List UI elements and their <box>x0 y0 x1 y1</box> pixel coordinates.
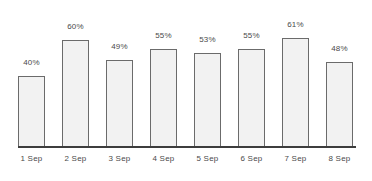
bar-rect[interactable] <box>326 62 353 147</box>
bar-chart: 40% 60% 49% 55% 53% 55% 61% 48% <box>0 0 372 181</box>
bar-group: 53% <box>194 0 221 148</box>
bar-value-label: 48% <box>317 44 362 54</box>
x-axis-tick-label: 2 Sep <box>53 153 98 165</box>
bar-group: 55% <box>150 0 177 148</box>
plot-area: 40% 60% 49% 55% 53% 55% 61% 48% <box>18 0 356 148</box>
bar-rect[interactable] <box>150 49 177 147</box>
bar-value-label: 55% <box>141 31 186 41</box>
bar-group: 60% <box>62 0 89 148</box>
bar-rect[interactable] <box>238 49 265 147</box>
bar-value-label: 49% <box>97 42 142 52</box>
x-axis-line <box>18 146 356 148</box>
bar-group: 48% <box>326 0 353 148</box>
bar-value-label: 55% <box>229 31 274 41</box>
bar-rect[interactable] <box>62 40 89 147</box>
x-axis-tick-label: 8 Sep <box>317 153 362 165</box>
bar-value-label: 61% <box>273 20 318 30</box>
bar-group: 40% <box>18 0 45 148</box>
x-axis-tick-label: 1 Sep <box>9 153 54 165</box>
bar-group: 49% <box>106 0 133 148</box>
bar-group: 61% <box>282 0 309 148</box>
bar-rect[interactable] <box>282 38 309 147</box>
bar-rect[interactable] <box>18 76 45 147</box>
bar-value-label: 40% <box>9 58 54 68</box>
x-axis-tick-label: 7 Sep <box>273 153 318 165</box>
bar-group: 55% <box>238 0 265 148</box>
x-axis-tick-label: 3 Sep <box>97 153 142 165</box>
x-axis-tick-label: 6 Sep <box>229 153 274 165</box>
bar-value-label: 60% <box>53 22 98 32</box>
x-axis-labels: 1 Sep 2 Sep 3 Sep 4 Sep 5 Sep 6 Sep 7 Se… <box>18 153 356 169</box>
bar-rect[interactable] <box>194 53 221 147</box>
x-axis-tick-label: 5 Sep <box>185 153 230 165</box>
bar-value-label: 53% <box>185 35 230 45</box>
x-axis-tick-label: 4 Sep <box>141 153 186 165</box>
bar-rect[interactable] <box>106 60 133 147</box>
